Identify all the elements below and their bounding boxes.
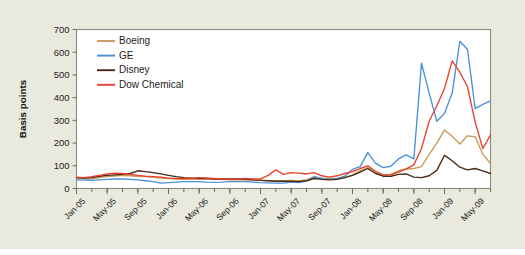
legend-label-dow-chemical: Dow Chemical [119,79,183,90]
chart-figure: 0100200300400500600700 Jan-05May-05Sep-0… [0,0,525,249]
credit-default-swap-line-chart: 0100200300400500600700 Jan-05May-05Sep-0… [0,0,525,249]
bottom-white-strip [0,249,525,255]
y-tick-label: 700 [54,24,70,35]
y-tick-label: 200 [54,137,70,148]
y-tick-label: 100 [54,160,70,171]
y-tick-label: 600 [54,47,70,58]
legend-label-boeing: Boeing [119,35,150,46]
y-axis-label: Basis points [17,79,28,138]
y-tick-label: 0 [64,183,69,194]
y-tick-label: 400 [54,92,70,103]
legend-label-ge: GE [119,50,134,61]
legend-label-disney: Disney [119,64,150,75]
plot-area [77,30,491,189]
y-tick-label: 300 [54,115,70,126]
y-tick-label: 500 [54,69,70,80]
